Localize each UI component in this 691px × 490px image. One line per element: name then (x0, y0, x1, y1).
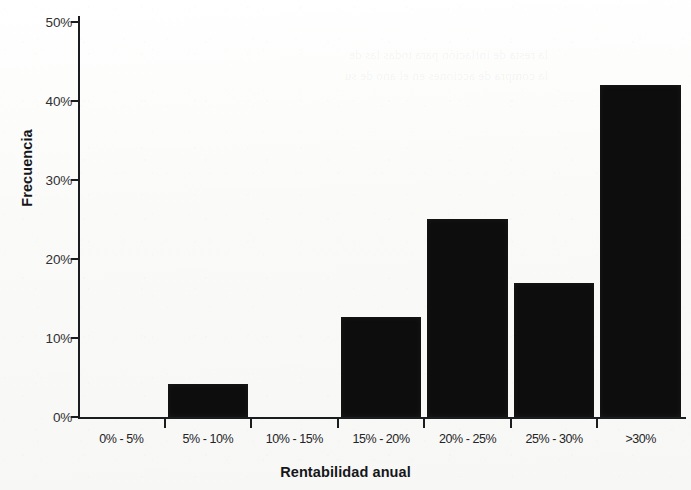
x-axis-title: Rentabilidad anual (0, 464, 691, 480)
x-tick-label: 5% - 10% (183, 432, 234, 446)
y-tick-mark (71, 258, 78, 260)
bar-25-30 (514, 283, 595, 417)
x-tick-mark (250, 419, 252, 428)
x-axis-line (78, 417, 686, 419)
y-axis-tick-labels: 0%10%20%30%40%50% (24, 0, 72, 490)
bar-15-20 (341, 317, 422, 417)
y-tick-label: 40% (26, 94, 72, 109)
y-tick-label: 30% (26, 173, 72, 188)
x-tick-label: 25% - 30% (526, 432, 583, 446)
plot-area (78, 22, 684, 417)
y-tick-mark (71, 100, 78, 102)
bar-5-10 (168, 384, 249, 417)
frequency-histogram-figure: Frecuencia 0%10%20%30%40%50% 0% - 5%5% -… (0, 0, 691, 490)
x-tick-label: 15% - 20% (352, 432, 409, 446)
bar-30 (600, 85, 681, 417)
y-tick-label: 50% (26, 15, 72, 30)
y-tick-label: 10% (26, 331, 72, 346)
y-axis-line (78, 16, 80, 419)
x-tick-label: 0% - 5% (99, 432, 143, 446)
y-tick-label: 0% (26, 410, 72, 425)
y-tick-mark (71, 337, 78, 339)
y-tick-mark (71, 416, 78, 418)
x-tick-mark (423, 419, 425, 428)
y-tick-mark (71, 21, 78, 23)
x-tick-label: 10% - 15% (266, 432, 323, 446)
y-tick-label: 20% (26, 252, 72, 267)
x-tick-mark (596, 419, 598, 428)
x-tick-label: >30% (625, 432, 656, 446)
y-tick-mark (71, 179, 78, 181)
bar-20-25 (427, 219, 508, 417)
x-tick-mark (337, 419, 339, 428)
x-tick-mark (164, 419, 166, 428)
x-tick-mark (510, 419, 512, 428)
x-tick-label: 20% - 25% (439, 432, 496, 446)
x-axis-tick-labels: 0% - 5%5% - 10%10% - 15%15% - 20%20% - 2… (78, 432, 684, 452)
